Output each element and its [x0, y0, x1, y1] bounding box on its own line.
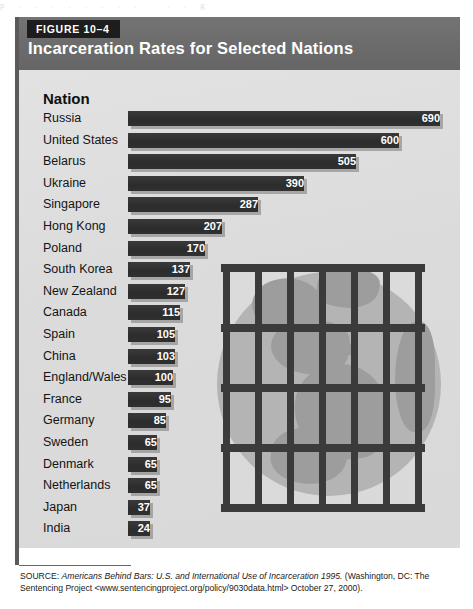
bar-row-label: Germany: [43, 412, 94, 428]
bar-row-label: Denmark: [43, 456, 94, 472]
bar-value-label: 37: [128, 500, 155, 515]
bar-row-label: United States: [43, 132, 118, 148]
bar-row-label: India: [43, 520, 70, 536]
bar-row-label: Ukraine: [43, 175, 86, 191]
bar-value-label: 600: [128, 133, 404, 148]
jail-bar-horizontal: [221, 384, 425, 392]
bar-value-label: 103: [128, 349, 180, 364]
bar-value-label: 105: [128, 327, 180, 342]
jail-bar-horizontal: [221, 324, 425, 332]
bar-value-label: 690: [128, 111, 445, 126]
bar-row-label: Poland: [43, 240, 82, 256]
bar-value-label: 24: [128, 521, 155, 536]
bar-value-label: 85: [128, 413, 171, 428]
source-title: Americans Behind Bars: U.S. and Internat…: [62, 571, 343, 581]
bar-value-label: 287: [128, 197, 263, 212]
chart-body: Nation Russia690United States600Belarus5…: [19, 70, 460, 548]
bar-value-label: 207: [128, 219, 227, 234]
jail-bar-horizontal: [221, 504, 425, 512]
bar-value-label: 65: [128, 457, 162, 472]
bar-value-label: 137: [128, 262, 195, 277]
jail-bars-over-globe-icon: [209, 260, 449, 548]
bar-value-label: 115: [128, 305, 185, 320]
bar-value-label: 95: [128, 392, 176, 407]
bar-row-label: Hong Kong: [43, 218, 106, 234]
bar-row-label: Belarus: [43, 153, 85, 169]
bar-value-label: 65: [128, 435, 162, 450]
figure-header-band: FIGURE 10–4 Incarceration Rates for Sele…: [19, 17, 460, 70]
bar-row-label: Sweden: [43, 434, 88, 450]
bar-value-label: 505: [128, 154, 361, 169]
bar-row-label: England/Wales: [43, 369, 127, 385]
scan-text-remnant: p . . . . . . . . . . . g: [0, 0, 473, 12]
bar-value-label: 127: [128, 284, 190, 299]
bar-row-label: Russia: [43, 110, 81, 126]
bar-row-label: South Korea: [43, 261, 113, 277]
bar-row-label: New Zealand: [43, 283, 117, 299]
bar-value-label: 170: [128, 241, 210, 256]
jail-bar-horizontal: [221, 264, 425, 272]
bar-value-label: 390: [128, 176, 309, 191]
bar-value-label: 65: [128, 478, 162, 493]
bar-row-label: Spain: [43, 326, 75, 342]
jail-bar-horizontal: [221, 444, 425, 452]
bar-value-label: 100: [128, 370, 178, 385]
source-label: SOURCE:: [20, 571, 59, 581]
bar-row-label: France: [43, 391, 82, 407]
figure-number-tag: FIGURE 10–4: [27, 20, 120, 38]
figure-title: Incarceration Rates for Selected Nations: [28, 39, 353, 58]
source-divider: [19, 565, 131, 566]
column-heading-nation: Nation: [43, 90, 90, 107]
figure-container: FIGURE 10–4 Incarceration Rates for Sele…: [15, 17, 460, 595]
source-note: SOURCE: Americans Behind Bars: U.S. and …: [20, 570, 458, 594]
bar-row-label: Singapore: [43, 196, 100, 212]
bar-row-label: Netherlands: [43, 477, 110, 493]
bar-row-label: Japan: [43, 499, 77, 515]
bar-row-label: China: [43, 348, 76, 364]
bar-row-label: Canada: [43, 304, 87, 320]
